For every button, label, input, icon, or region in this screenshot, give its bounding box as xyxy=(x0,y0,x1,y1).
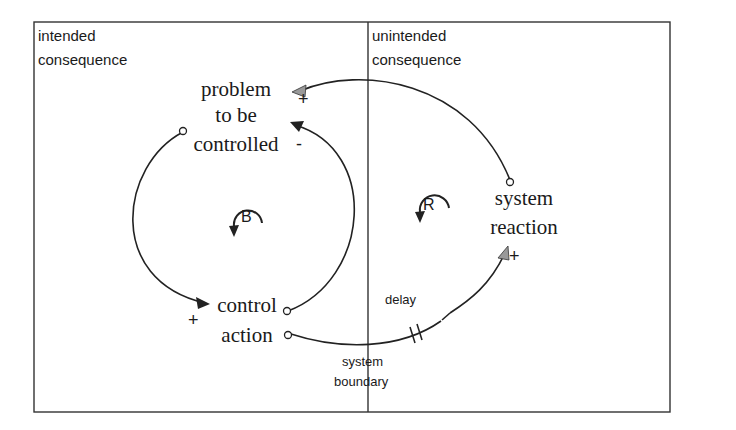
polarity-plus: + xyxy=(298,89,309,109)
polarity-plus: + xyxy=(509,246,520,266)
balancing-loop-icon: B xyxy=(229,208,262,237)
link-origin-circle xyxy=(507,179,514,186)
boundary-label-1: system xyxy=(342,354,383,369)
polarity-plus: + xyxy=(188,310,199,330)
svg-text:R: R xyxy=(423,196,435,213)
reinforcing-loop-icon: R xyxy=(415,195,449,223)
polarity-minus: - xyxy=(296,134,302,154)
svg-text:B: B xyxy=(241,208,252,225)
reaction-to-problem-link xyxy=(300,80,510,180)
control-var-1: control xyxy=(217,293,277,317)
delay-label: delay xyxy=(385,292,417,307)
boundary-label-2: boundary xyxy=(334,374,389,389)
arrowhead-icon xyxy=(498,246,509,260)
problem-var-2: to be xyxy=(215,103,256,127)
problem-to-control-link xyxy=(133,132,205,303)
control-to-reaction-link-end xyxy=(450,253,505,313)
intended-label-2: consequence xyxy=(38,51,127,68)
control-to-reaction-link xyxy=(291,321,441,345)
link-origin-circle xyxy=(180,128,187,135)
link-origin-circle xyxy=(285,332,292,339)
reaction-var-1: system xyxy=(495,186,553,210)
arrowhead-icon xyxy=(196,297,210,309)
control-var-2: action xyxy=(221,323,273,347)
unintended-label-2: consequence xyxy=(372,51,461,68)
causal-loop-diagram: intended consequence unintended conseque… xyxy=(0,0,736,430)
unintended-label-1: unintended xyxy=(372,27,446,44)
problem-var-1: problem xyxy=(201,77,271,101)
reaction-var-2: reaction xyxy=(490,215,558,239)
link-origin-circle xyxy=(284,308,291,315)
problem-var-3: controlled xyxy=(193,132,279,156)
intended-label-1: intended xyxy=(38,27,96,44)
